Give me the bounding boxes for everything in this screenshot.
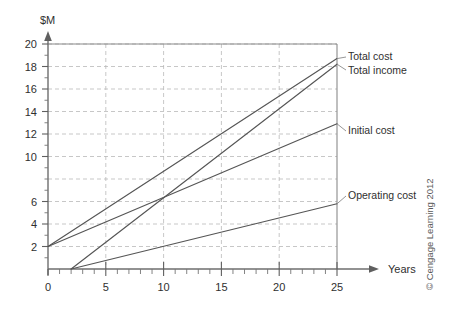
series-label-total-cost: Total cost <box>348 50 392 62</box>
y-axis-tick-labels: 20 18 16 14 12 10 6 4 2 <box>25 38 37 253</box>
series-line-operating-cost <box>71 204 337 269</box>
x-tick-label-0: 0 <box>45 281 51 293</box>
y-axis <box>44 31 52 275</box>
y-tick-label-6: 6 <box>31 196 37 208</box>
leader-total-cost <box>337 57 346 59</box>
y-tick-label-20: 20 <box>25 38 37 50</box>
y-axis-title: $M <box>40 14 55 26</box>
y-tick-label-2: 2 <box>31 241 37 253</box>
leader-operating-cost <box>337 196 346 204</box>
x-tick-label-25: 25 <box>331 281 343 293</box>
x-tick-label-15: 15 <box>215 281 227 293</box>
horizontal-gridlines <box>48 44 337 247</box>
series-label-initial-cost: Initial cost <box>348 124 395 136</box>
leader-initial-cost <box>337 124 346 131</box>
y-tick-label-10: 10 <box>25 151 37 163</box>
series-line-total-income <box>71 64 337 269</box>
x-axis-minor-ticks <box>60 269 326 274</box>
series-labels: Total cost Total income Initial cost Ope… <box>348 50 416 201</box>
x-tick-label-5: 5 <box>103 281 109 293</box>
series-label-total-income: Total income <box>348 64 407 76</box>
x-axis <box>48 265 379 273</box>
x-axis-arrow-icon <box>369 265 379 273</box>
x-axis-title: Years <box>388 263 416 275</box>
y-tick-label-18: 18 <box>25 61 37 73</box>
y-tick-label-16: 16 <box>25 83 37 95</box>
x-tick-label-10: 10 <box>157 281 169 293</box>
y-tick-label-14: 14 <box>25 106 37 118</box>
leader-total-income <box>337 64 346 70</box>
y-tick-label-12: 12 <box>25 128 37 140</box>
y-axis-arrow-icon <box>44 31 52 41</box>
series-line-total-cost <box>48 59 337 247</box>
copyright-credit: © Cengage Learning 2012 <box>424 178 435 290</box>
series-label-operating-cost: Operating cost <box>348 189 416 201</box>
y-tick-label-4: 4 <box>31 218 37 230</box>
line-chart-svg: 20 18 16 14 12 10 6 4 2 0 5 10 15 20 25 … <box>0 0 449 312</box>
series-label-leaders <box>337 57 346 204</box>
chart-figure: 20 18 16 14 12 10 6 4 2 0 5 10 15 20 25 … <box>0 0 449 312</box>
x-axis-tick-labels: 0 5 10 15 20 25 <box>45 281 343 293</box>
x-tick-label-20: 20 <box>273 281 285 293</box>
series-line-initial-cost <box>48 124 337 247</box>
